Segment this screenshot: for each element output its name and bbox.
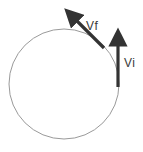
final-velocity-label: Vf [86, 20, 98, 32]
circular-motion-diagram [0, 0, 143, 152]
initial-velocity-label: Vi [124, 57, 135, 69]
